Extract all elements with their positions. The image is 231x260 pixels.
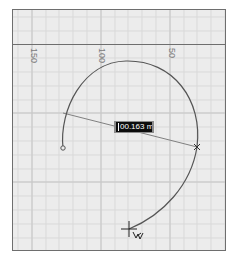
drawing-canvas[interactable]: 150 100 50 00.163 mm: [12, 9, 226, 251]
dimension-value: 00.163 mm: [120, 122, 152, 131]
dimension-input-box[interactable]: 00.163 mm: [114, 121, 154, 133]
sketch-arc: [63, 61, 198, 229]
text-caret: [118, 123, 119, 131]
arc-start-point-icon: [61, 146, 65, 150]
dimension-input-field[interactable]: 00.163 mm: [116, 122, 152, 132]
